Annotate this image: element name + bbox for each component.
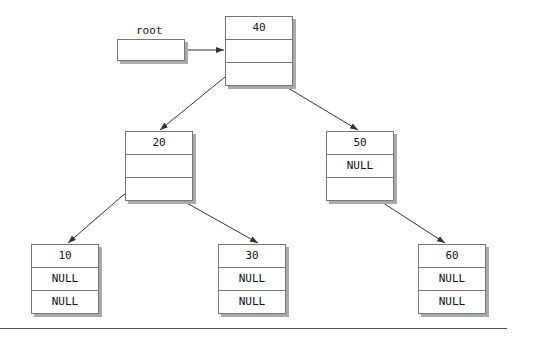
node-left-pointer <box>226 40 292 63</box>
node-value: 30 <box>219 245 285 268</box>
tree-node-20: 20 <box>125 131 193 201</box>
tree-node-10: 10 NULL NULL <box>31 244 99 314</box>
tree-node-50: 50 NULL <box>326 131 394 201</box>
node-left-pointer: NULL <box>327 155 393 178</box>
node-left-pointer <box>126 155 192 178</box>
tree-node-60: 60 NULL NULL <box>418 244 486 314</box>
node-right-pointer <box>226 63 292 85</box>
node-right-pointer: NULL <box>419 291 485 313</box>
node-right-pointer: NULL <box>32 291 98 313</box>
node-left-pointer: NULL <box>419 268 485 291</box>
node-left-pointer: NULL <box>32 268 98 291</box>
node-value: 40 <box>226 17 292 40</box>
node-right-pointer: NULL <box>219 291 285 313</box>
bottom-divider <box>0 328 507 329</box>
root-pointer-box <box>117 39 185 61</box>
node-right-pointer <box>327 178 393 200</box>
node-value: 10 <box>32 245 98 268</box>
tree-node-40: 40 <box>225 16 293 86</box>
node-right-pointer <box>126 178 192 200</box>
node-value: 50 <box>327 132 393 155</box>
node-value: 20 <box>126 132 192 155</box>
root-pointer-label: root <box>136 24 163 37</box>
node-left-pointer: NULL <box>219 268 285 291</box>
node-value: 60 <box>419 245 485 268</box>
tree-node-30: 30 NULL NULL <box>218 244 286 314</box>
